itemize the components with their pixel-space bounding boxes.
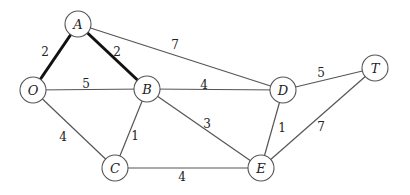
edge-weight-t-e: 7 <box>317 120 325 134</box>
edge-weight-a-d: 7 <box>171 38 179 52</box>
edge-weight-b-c: 1 <box>131 129 139 143</box>
edge-b-d <box>147 89 283 90</box>
edge-weight-b-e: 3 <box>203 117 211 131</box>
node-a: A <box>65 11 91 37</box>
node-label: D <box>277 83 289 98</box>
edge-weight-o-c: 4 <box>59 130 67 144</box>
edge-weight-d-e: 1 <box>278 121 286 135</box>
edge-weight-a-o: 2 <box>41 45 49 59</box>
edge-labels-layer: 227545413174 <box>41 38 325 184</box>
node-c: C <box>102 155 128 181</box>
node-label: O <box>28 83 39 98</box>
node-label: C <box>110 161 120 176</box>
node-o: O <box>20 77 46 103</box>
node-b: B <box>134 76 160 102</box>
node-d: D <box>270 77 296 103</box>
node-e: E <box>248 155 274 181</box>
edge-a-d <box>78 24 283 90</box>
edge-o-b <box>33 89 147 90</box>
nodes-layer: AOBDTCE <box>20 11 388 181</box>
graph-diagram: 227545413174 AOBDTCE <box>0 0 410 195</box>
edge-weight-b-d: 4 <box>200 78 208 92</box>
edge-weight-d-t: 5 <box>317 66 325 80</box>
node-label: A <box>72 17 82 32</box>
node-label: E <box>255 161 266 176</box>
edge-o-c <box>33 90 115 168</box>
node-t: T <box>362 55 388 81</box>
edge-weight-a-b: 2 <box>113 45 121 59</box>
node-label: T <box>371 61 381 76</box>
node-label: B <box>141 82 152 97</box>
edge-weight-c-e: 4 <box>178 170 186 184</box>
edge-d-t <box>283 68 375 90</box>
edges-layer <box>33 24 375 168</box>
edge-weight-o-b: 5 <box>82 77 90 91</box>
